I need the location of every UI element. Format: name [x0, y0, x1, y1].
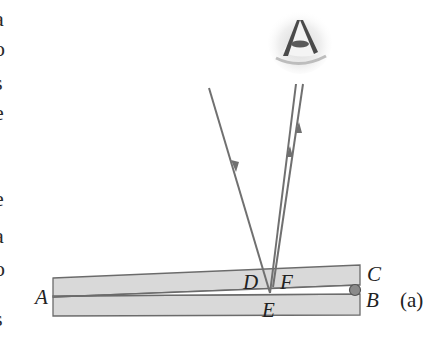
- label-a: A: [35, 287, 48, 308]
- reflected-ray-top: [273, 84, 303, 287]
- label-c: C: [367, 264, 381, 285]
- reflected-ray-bottom: [270, 84, 296, 293]
- lower-plate: [53, 294, 360, 316]
- label-f: F: [280, 272, 293, 293]
- eye-icon: [268, 10, 332, 74]
- spacer-ball: [350, 285, 361, 296]
- incident-ray: [209, 88, 270, 293]
- figure-caption: (a): [400, 290, 423, 311]
- label-e: E: [262, 300, 275, 321]
- air-wedge-diagram: [0, 0, 447, 345]
- label-b: B: [366, 290, 379, 311]
- label-d: D: [243, 272, 258, 293]
